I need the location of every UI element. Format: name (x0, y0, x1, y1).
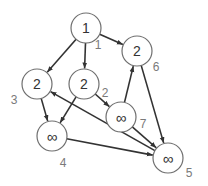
node-2: 22 (69, 69, 109, 100)
node-id-label: 1 (95, 38, 102, 52)
node-3: 23 (11, 69, 52, 107)
edge-6-to-5 (141, 65, 164, 143)
edge-7-to-6 (125, 66, 134, 102)
node-6: 26 (122, 36, 160, 74)
node-id-label: 4 (60, 156, 67, 170)
edge-1-to-6 (100, 34, 123, 44)
node-1: 11 (71, 13, 102, 52)
edge-1-to-3 (47, 39, 76, 72)
node-value: ∞ (163, 150, 174, 167)
node-id-label: 3 (11, 93, 18, 107)
nodes-layer: 112223∞4∞526∞7 (11, 13, 193, 180)
node-value: ∞ (116, 109, 127, 126)
edge-3-to-4 (41, 98, 48, 121)
node-id-label: 5 (186, 166, 193, 180)
node-7: ∞7 (106, 102, 147, 132)
edge-1-to-2 (85, 43, 86, 69)
node-value: ∞ (47, 128, 58, 145)
node-id-label: 7 (140, 117, 147, 131)
node-value: 2 (133, 43, 141, 59)
directed-graph-diagram: 112223∞4∞526∞7 (0, 0, 208, 186)
node-value: 1 (82, 20, 90, 36)
node-id-label: 6 (153, 60, 160, 74)
node-id-label: 2 (102, 86, 109, 100)
node-4: ∞4 (37, 121, 67, 170)
node-value: 2 (80, 76, 88, 92)
node-5: ∞5 (153, 143, 193, 180)
node-value: 2 (33, 76, 41, 92)
